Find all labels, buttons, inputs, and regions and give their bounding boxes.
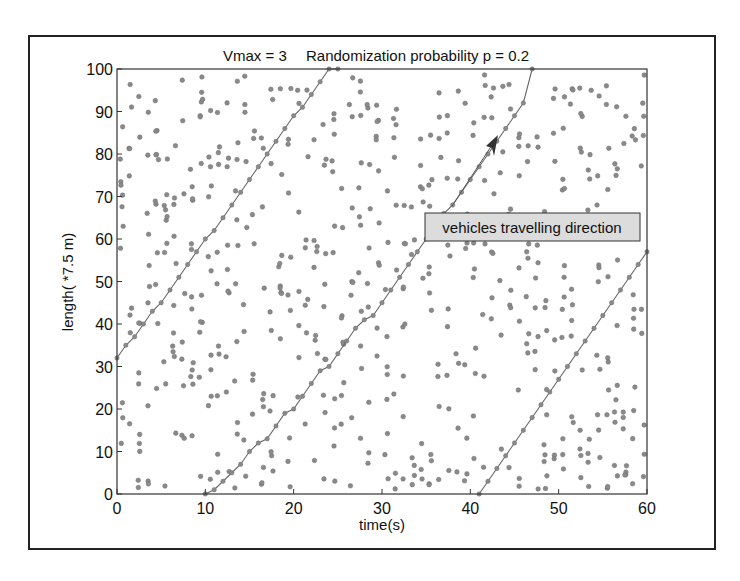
vehicle-dot — [288, 255, 293, 260]
vehicle-dot — [535, 243, 540, 248]
vehicle-dot — [358, 113, 363, 118]
x-tick-label: 60 — [638, 500, 656, 517]
vehicle-dot — [164, 192, 169, 197]
vehicle-dot — [471, 414, 476, 419]
trajectory-dot — [389, 288, 393, 292]
vehicle-dot — [170, 344, 175, 349]
vehicle-dot — [358, 223, 363, 228]
trajectory-dot — [362, 318, 366, 322]
x-tick-label: 0 — [113, 500, 122, 517]
vehicle-dot — [607, 146, 612, 151]
vehicle-dot — [499, 447, 504, 452]
vehicle-dot — [233, 189, 238, 194]
vehicle-dot — [146, 153, 151, 158]
vehicle-dot — [127, 146, 132, 151]
trajectory-dot — [230, 471, 234, 475]
vehicle-dot — [462, 362, 467, 367]
vehicle-dot — [190, 433, 195, 438]
vehicle-dot — [615, 383, 620, 388]
vehicle-dot — [182, 192, 187, 197]
vehicle-dot — [595, 412, 600, 417]
vehicle-dot — [359, 309, 364, 314]
vehicle-dot — [409, 252, 414, 257]
vehicle-dot — [578, 428, 583, 433]
vehicle-dot — [206, 403, 211, 408]
vehicle-dot — [377, 263, 382, 268]
vehicle-dot — [215, 281, 220, 286]
trajectory-lines — [115, 67, 649, 496]
vehicle-dot — [524, 294, 529, 299]
vehicle-dot — [209, 367, 214, 372]
vehicle-dot — [631, 316, 636, 321]
vehicle-dot — [188, 167, 193, 172]
vehicle-dot — [570, 303, 575, 308]
vehicle-dot — [383, 452, 388, 457]
vehicle-dot — [225, 267, 230, 272]
vehicle-dot — [524, 250, 529, 255]
vehicle-dot — [614, 104, 619, 109]
vehicle-dot — [259, 136, 264, 141]
vehicle-dot — [614, 173, 619, 178]
trajectory-dot — [194, 250, 198, 254]
vehicle-dot — [244, 225, 249, 230]
vehicle-dot — [162, 203, 167, 208]
chart-svg: Vmax = 3 Randomization probability p = 0… — [0, 0, 740, 581]
vehicle-dot — [136, 485, 141, 490]
vehicle-dot — [427, 271, 432, 276]
vehicle-dot — [385, 397, 390, 402]
vehicle-dot — [375, 119, 380, 124]
vehicle-dot — [374, 103, 379, 108]
trajectory-dot — [309, 381, 313, 385]
vehicle-dot — [118, 246, 123, 251]
vehicle-dot — [190, 184, 195, 189]
vehicle-dot — [146, 482, 151, 487]
vehicle-dot — [401, 285, 406, 290]
vehicle-dot — [163, 208, 168, 213]
vehicle-dot — [421, 276, 426, 281]
trajectory-dot — [415, 250, 419, 254]
vehicle-dot — [182, 291, 187, 296]
vehicle-dot — [286, 293, 291, 298]
y-tick-label: 10 — [95, 444, 113, 461]
vehicle-dot — [536, 260, 541, 265]
vehicle-dot — [533, 349, 538, 354]
vehicle-dot — [394, 107, 399, 112]
vehicle-dot — [278, 286, 283, 291]
vehicle-dot — [312, 458, 317, 463]
vehicle-dot — [501, 84, 506, 89]
vehicle-dot — [350, 76, 355, 81]
vehicle-dot — [499, 333, 504, 338]
trajectory-dot — [318, 80, 322, 84]
vehicle-dot — [604, 102, 609, 107]
vehicle-dot — [562, 275, 567, 280]
trajectory-dot — [618, 288, 622, 292]
vehicle-dot — [242, 74, 247, 79]
vehicle-dot — [180, 340, 185, 345]
vehicle-dot — [181, 384, 186, 389]
vehicle-dot — [208, 477, 213, 482]
vehicle-dot — [297, 323, 302, 328]
vehicle-dot — [137, 94, 142, 99]
vehicle-dot — [242, 329, 247, 334]
vehicle-dot — [146, 232, 151, 237]
vehicle-dot — [323, 251, 328, 256]
vehicle-dot — [427, 291, 432, 296]
vehicle-dot — [207, 155, 212, 160]
vehicle-dot — [437, 115, 442, 120]
vehicle-dot — [172, 196, 177, 201]
vehicle-dot — [561, 177, 566, 182]
vehicle-dot — [306, 154, 311, 159]
vehicle-dot — [156, 157, 161, 162]
trajectory-dot — [159, 301, 163, 305]
vehicle-dot — [367, 400, 372, 405]
vehicle-dot — [224, 354, 229, 359]
vehicle-dot — [561, 126, 566, 131]
vehicle-dot — [552, 338, 557, 343]
vehicle-dot — [569, 287, 574, 292]
vehicle-dot — [447, 407, 452, 412]
vehicle-dot — [367, 162, 372, 167]
vehicle-dot — [490, 296, 495, 301]
vehicle-dot — [596, 428, 601, 433]
trajectory-dot — [283, 411, 287, 415]
vehicle-dot — [526, 331, 531, 336]
